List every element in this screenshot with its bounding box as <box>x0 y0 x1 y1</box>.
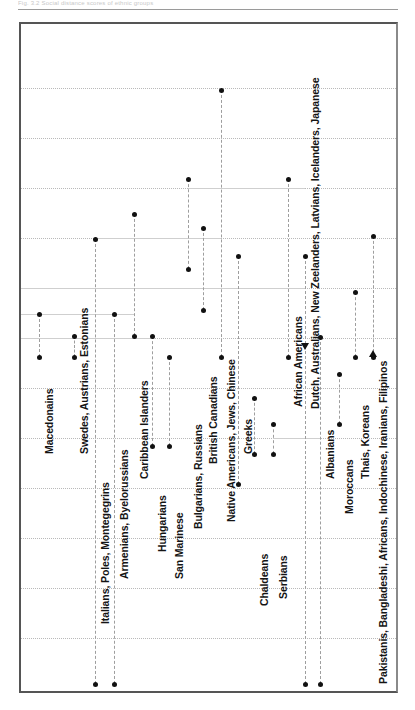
category-label: British Canadians <box>207 376 219 464</box>
category-label: Thais, Koreans <box>359 405 371 479</box>
category-label: San Marinese <box>173 513 185 580</box>
data-point-upper <box>93 237 98 242</box>
data-point-lower <box>286 355 291 360</box>
category-stem <box>305 256 306 684</box>
category-label: Swedes, Austrians, Estonians <box>78 308 90 454</box>
data-point-lower <box>93 682 98 687</box>
data-point-lower <box>252 452 257 457</box>
category-label: Italians, Poles, Montegegrins <box>99 482 111 624</box>
category-stem <box>273 424 274 454</box>
category-stem <box>203 228 204 310</box>
category-stem <box>254 398 255 454</box>
data-point-lower <box>37 355 42 360</box>
category-label: Serbians <box>277 555 289 599</box>
data-point-lower <box>132 334 137 339</box>
data-point-upper <box>286 177 291 182</box>
category-label: Macedonains <box>43 389 55 454</box>
gridline <box>21 538 396 539</box>
category-stem <box>238 256 239 484</box>
gridline <box>21 638 396 639</box>
category-label: Armenians, Byelorussians <box>118 450 130 580</box>
data-point-lower <box>219 355 224 360</box>
data-point-upper <box>186 177 191 182</box>
plot-area: MacedonainsSwedes, Austrians, EstoniansI… <box>21 24 396 691</box>
category-stem <box>355 292 356 357</box>
data-point-upper <box>252 396 257 401</box>
data-point-lower <box>186 267 191 272</box>
gridline <box>21 588 396 589</box>
data-point-lower <box>318 682 323 687</box>
figure-page: Fig. 3.2 Social distance scores of ethni… <box>0 0 415 710</box>
data-point-upper <box>167 355 172 360</box>
data-point-lower <box>167 444 172 449</box>
data-point-lower <box>112 682 117 687</box>
data-point-upper <box>219 88 224 93</box>
category-stem <box>320 337 321 684</box>
data-point-upper <box>303 254 308 259</box>
gridline <box>21 138 396 139</box>
category-label: African Americans <box>292 316 304 407</box>
category-label: Albanians <box>324 430 336 479</box>
category-stem <box>339 374 340 424</box>
data-point-upper <box>337 372 342 377</box>
category-stem <box>373 236 374 357</box>
triangle-down-marker-icon <box>301 343 309 350</box>
category-label: Pakistanis, Bangladeshi, Africans, Indoc… <box>377 361 389 684</box>
running-head: Fig. 3.2 Social distance scores of ethni… <box>18 0 363 8</box>
data-point-upper <box>37 312 42 317</box>
data-point-upper <box>271 422 276 427</box>
connector-segment <box>21 288 221 289</box>
category-label: Chaldeans <box>258 554 270 606</box>
category-stem <box>74 336 75 357</box>
data-point-upper <box>72 334 77 339</box>
gridline <box>21 88 396 89</box>
data-point-upper <box>353 290 358 295</box>
connector-segment <box>203 288 305 289</box>
data-point-upper <box>201 226 206 231</box>
category-stem <box>114 314 115 684</box>
data-point-upper <box>150 334 155 339</box>
category-label: Moroccans <box>343 459 355 514</box>
data-point-upper <box>132 212 137 217</box>
category-stem <box>152 336 153 446</box>
category-stem <box>95 239 96 684</box>
category-stem <box>221 90 222 357</box>
data-point-lower <box>201 308 206 313</box>
data-point-upper <box>112 312 117 317</box>
data-point-lower <box>236 482 241 487</box>
data-point-lower <box>303 682 308 687</box>
category-stem <box>39 314 40 357</box>
category-stem <box>288 179 289 357</box>
data-point-lower <box>72 355 77 360</box>
category-label: Native Americans, Jews, Chinese <box>225 359 237 522</box>
connector-segment <box>273 438 320 439</box>
category-label: Bulgarians, Russians <box>192 424 204 529</box>
data-point-lower <box>337 422 342 427</box>
category-label: Hungarians <box>156 495 168 552</box>
data-point-upper <box>318 335 323 340</box>
triangle-up-marker-icon <box>369 350 377 357</box>
data-point-lower <box>353 355 358 360</box>
category-label: Greeks <box>242 419 254 454</box>
data-point-lower <box>271 452 276 457</box>
gridline <box>21 488 396 489</box>
data-point-lower <box>150 444 155 449</box>
data-point-upper <box>236 254 241 259</box>
category-label: Caribbean Islanders <box>138 381 150 479</box>
category-stem <box>134 214 135 336</box>
category-stem <box>169 357 170 446</box>
category-stem <box>188 179 189 269</box>
header-rule <box>18 9 398 10</box>
data-point-upper <box>371 234 376 239</box>
